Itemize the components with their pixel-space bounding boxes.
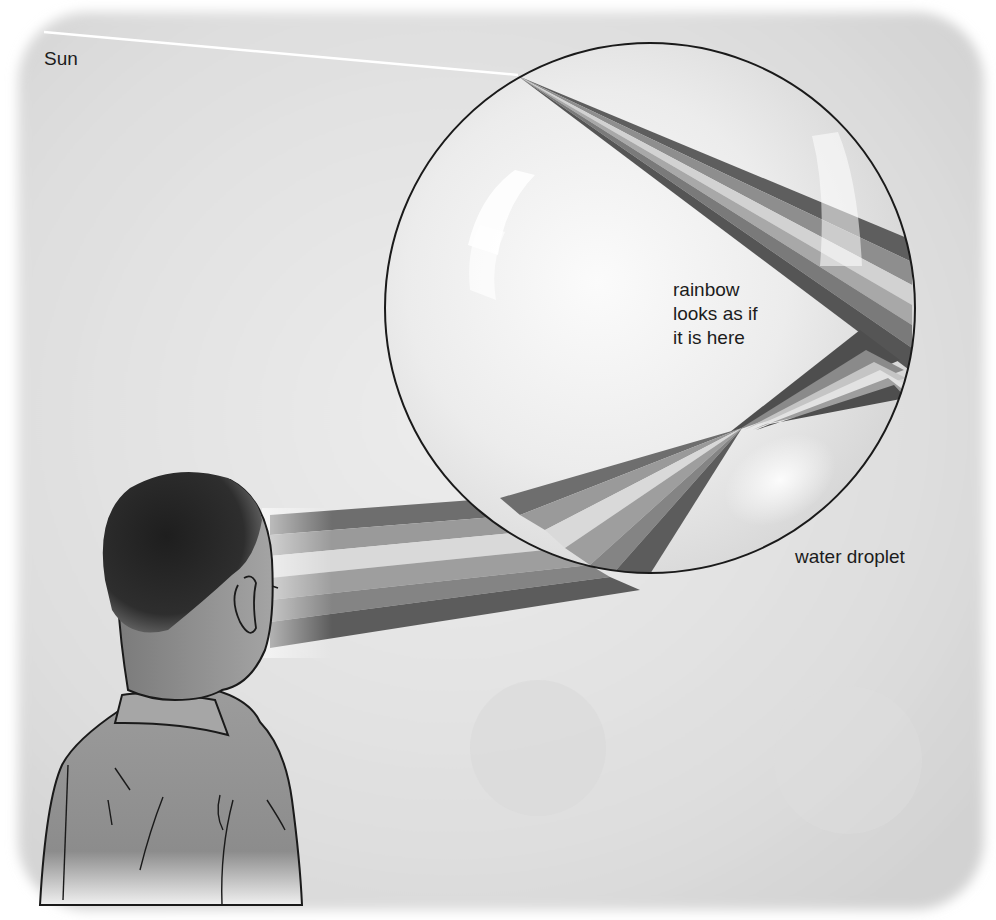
rainbow-diagram: Sun rainbow looks as if it is here water… xyxy=(0,0,996,920)
faint-droplet-1 xyxy=(470,680,606,816)
rainbow-label-line-1: rainbow xyxy=(673,278,793,302)
rainbow-position-label: rainbow looks as if it is here xyxy=(673,278,793,350)
illustration-canvas xyxy=(0,0,996,920)
rainbow-label-line-3: it is here xyxy=(673,326,793,350)
sun-label: Sun xyxy=(44,47,78,71)
rainbow-label-line-2: looks as if xyxy=(673,302,793,326)
water-droplet-label: water droplet xyxy=(795,545,905,569)
faint-droplet-2 xyxy=(774,686,922,834)
